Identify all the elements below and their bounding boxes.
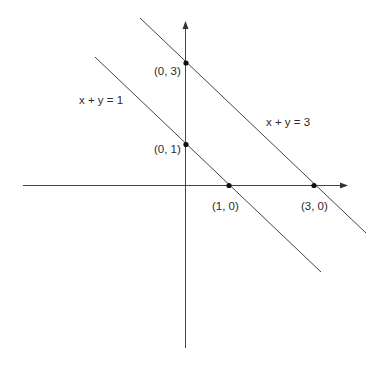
label-line2: x + y = 3: [266, 116, 310, 128]
point-1-0: [226, 183, 231, 188]
line-x-plus-y-3: [140, 18, 366, 233]
label-p10: (1, 0): [212, 200, 239, 212]
label-p01: (0, 1): [154, 143, 181, 155]
point-0-1: [183, 142, 188, 147]
label-line1: x + y = 1: [79, 94, 123, 106]
label-p30: (3, 0): [301, 200, 328, 212]
point-3-0: [311, 183, 316, 188]
label-p03: (0, 3): [154, 65, 181, 77]
line-x-plus-y-1: [95, 57, 321, 272]
point-0-3: [183, 60, 188, 65]
graph: (0, 3) x + y = 1 x + y = 3 (0, 1) (1, 0)…: [0, 0, 389, 368]
